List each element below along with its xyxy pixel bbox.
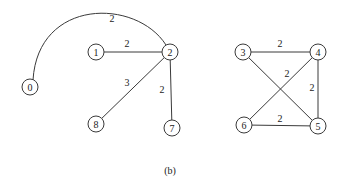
edge-weight-2-7: 2 bbox=[160, 84, 165, 95]
edge-6-4 bbox=[250, 58, 313, 120]
edge-6-5 bbox=[252, 125, 310, 126]
edge-weight-6-4: 2 bbox=[285, 68, 290, 79]
node-0: 0 bbox=[22, 79, 38, 95]
node-label: 4 bbox=[316, 47, 321, 58]
edge-weight-1-2: 2 bbox=[125, 38, 130, 49]
node-1: 1 bbox=[88, 44, 104, 60]
node-7: 7 bbox=[164, 120, 180, 136]
edge-weight-0-2: 2 bbox=[110, 13, 115, 24]
edge-2-7 bbox=[170, 60, 172, 120]
weights-layer: 22322222 bbox=[110, 13, 315, 124]
node-label: 5 bbox=[316, 121, 321, 132]
edges-layer bbox=[33, 13, 318, 126]
edge-8-2 bbox=[102, 58, 165, 119]
node-label: 7 bbox=[170, 123, 175, 134]
edge-weight-8-2: 3 bbox=[125, 77, 130, 88]
node-label: 6 bbox=[242, 120, 247, 131]
node-4: 4 bbox=[310, 44, 326, 60]
node-8: 8 bbox=[88, 116, 104, 132]
node-label: 8 bbox=[94, 119, 99, 130]
node-5: 5 bbox=[310, 118, 326, 134]
edge-weight-6-5: 2 bbox=[278, 113, 283, 124]
node-label: 0 bbox=[28, 82, 33, 93]
node-2: 2 bbox=[162, 44, 178, 60]
node-label: 3 bbox=[241, 47, 246, 58]
node-label: 1 bbox=[94, 47, 99, 58]
figure-caption: (b) bbox=[164, 165, 176, 177]
edge-weight-4-5: 2 bbox=[310, 82, 315, 93]
edge-weight-3-4: 2 bbox=[278, 38, 283, 49]
graph-diagram: 012873465 22322222 (b) bbox=[0, 0, 340, 184]
node-label: 2 bbox=[168, 47, 173, 58]
node-6: 6 bbox=[236, 117, 252, 133]
node-3: 3 bbox=[235, 44, 251, 60]
